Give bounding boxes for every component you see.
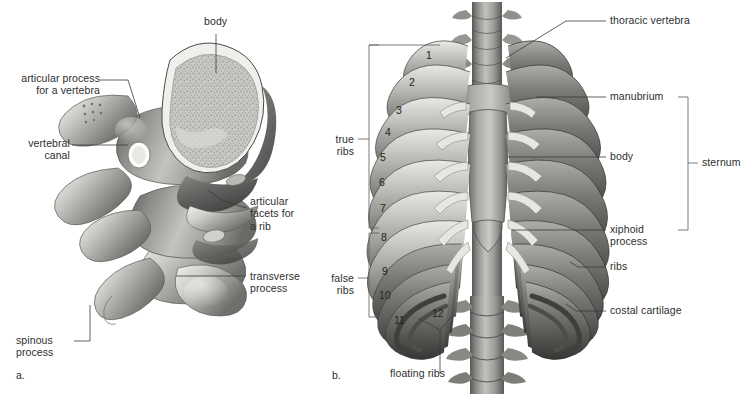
figure-canvas bbox=[0, 0, 744, 396]
rib-number-1: 1 bbox=[426, 49, 432, 61]
panel-a-id: a. bbox=[16, 369, 25, 381]
rib-number-5: 5 bbox=[380, 151, 386, 163]
label-vertebral-canal: vertebral canal bbox=[14, 137, 70, 162]
label-transverse-process: transverse process bbox=[250, 270, 300, 295]
panel-b-id: b. bbox=[332, 369, 341, 381]
label-vertebral-body: body bbox=[204, 15, 227, 27]
rib-number-10: 10 bbox=[379, 289, 391, 301]
label-false-ribs: false ribs bbox=[318, 272, 354, 297]
label-ribs: ribs bbox=[610, 260, 627, 272]
rib-number-3: 3 bbox=[396, 104, 402, 116]
label-articular-facets: articular facets for a rib bbox=[250, 195, 294, 232]
label-floating-ribs: floating ribs bbox=[390, 367, 445, 379]
label-manubrium: manubrium bbox=[610, 90, 663, 102]
rib-number-9: 9 bbox=[382, 265, 388, 277]
rib-number-2: 2 bbox=[409, 76, 415, 88]
rib-number-11: 11 bbox=[394, 314, 405, 326]
label-sternum-body: body bbox=[610, 150, 633, 162]
rib-number-6: 6 bbox=[379, 176, 385, 188]
rib-number-8: 8 bbox=[381, 231, 387, 243]
rib-number-12: 12 bbox=[432, 307, 444, 319]
label-sternum: sternum bbox=[702, 156, 741, 168]
label-true-ribs: true ribs bbox=[318, 133, 354, 158]
rib-number-7: 7 bbox=[380, 202, 386, 214]
label-articular-process: articular process for a vertebra bbox=[14, 72, 100, 97]
rib-number-4: 4 bbox=[385, 126, 391, 138]
label-thoracic-vertebra: thoracic vertebra bbox=[610, 14, 690, 26]
label-costal-cartilage: costal cartilage bbox=[610, 304, 682, 316]
label-spinous-process: spinous process bbox=[16, 334, 53, 359]
label-xiphoid-process: xiphoid process bbox=[610, 223, 647, 248]
anatomy-figure: body articular process for a vertebra ve… bbox=[0, 0, 744, 396]
